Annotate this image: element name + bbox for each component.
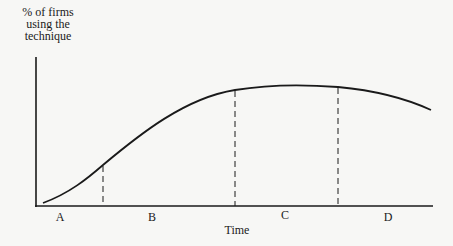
phase-label-a: A	[56, 211, 65, 223]
phase-label-b: B	[148, 211, 156, 223]
diffusion-curve	[43, 85, 431, 203]
phase-label-d: D	[384, 211, 393, 223]
phase-label-c: C	[281, 209, 289, 221]
x-axis-label: Time	[225, 224, 250, 236]
